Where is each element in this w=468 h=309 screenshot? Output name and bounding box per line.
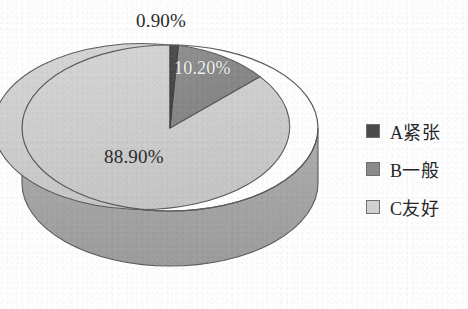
legend-item-c: C友好 <box>366 188 466 226</box>
legend-swatch-c-icon <box>366 200 380 214</box>
legend-label-a: A紧张 <box>390 118 440 144</box>
legend-label-b: B一般 <box>390 156 439 182</box>
legend-swatch-a-icon <box>366 124 380 138</box>
pie-top-face <box>0 43 318 211</box>
data-label-slice-c: 88.90% <box>104 146 164 168</box>
legend-item-a: A紧张 <box>366 112 466 150</box>
pie-chart-figure: 0.90% 10.20% 88.90% A紧张 B一般 C友好 <box>0 0 468 309</box>
legend-swatch-b-icon <box>366 162 380 176</box>
data-label-slice-a: 0.90% <box>136 10 186 32</box>
data-label-slice-b: 10.20% <box>174 58 231 79</box>
legend-item-b: B一般 <box>366 150 466 188</box>
legend-label-c: C友好 <box>390 194 439 220</box>
chart-legend: A紧张 B一般 C友好 <box>366 112 466 226</box>
